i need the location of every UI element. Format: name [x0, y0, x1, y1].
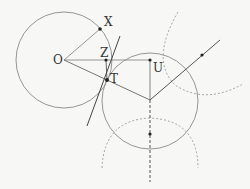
point-ray	[200, 53, 203, 56]
point-u	[148, 58, 151, 61]
segment-ox	[64, 29, 100, 60]
label-u: U	[153, 62, 163, 74]
segment-zt	[106, 60, 107, 80]
point-vertical	[148, 132, 151, 135]
geometry-diagram: O X Z T U	[0, 0, 250, 189]
point-t	[105, 78, 109, 82]
label-z: Z	[100, 47, 108, 59]
point-x	[98, 27, 102, 31]
diagram-svg	[0, 0, 250, 189]
label-x: X	[104, 16, 113, 28]
dashed-arc-upper	[163, 12, 243, 95]
label-o: O	[53, 54, 63, 66]
label-t: T	[110, 73, 118, 85]
